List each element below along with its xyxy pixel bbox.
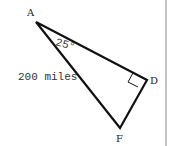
vertex-label-a: A <box>26 7 35 18</box>
vertex-label-d: D <box>150 75 158 86</box>
vertex-label-f: F <box>116 133 123 144</box>
side-length-label: 200 miles <box>18 71 77 83</box>
triangle-diagram: A D F 25° 200 miles <box>0 0 169 146</box>
diagram-svg: A D F 25° 200 miles <box>0 0 169 146</box>
